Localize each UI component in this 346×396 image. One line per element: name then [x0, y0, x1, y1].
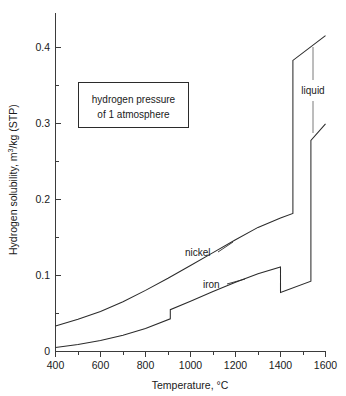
chart-figure: 0 0.1 0.2 0.3 0.4 Hydrogen solubility, m…	[0, 0, 346, 396]
iron-callout: iron	[203, 279, 245, 290]
pressure-annotation-line2: of 1 atmosphere	[97, 109, 170, 120]
liquid-label: liquid	[301, 85, 324, 96]
liquid-callout: liquid	[301, 47, 324, 133]
x-tick-label-1000: 1000	[179, 359, 203, 371]
x-tick-label-800: 800	[137, 359, 155, 371]
y-axis-title-main: Hydrogen solubility, m	[7, 152, 19, 255]
y-tick-label-0: 0	[44, 345, 50, 357]
iron-curve	[56, 124, 326, 348]
svg-text:Hydrogen solubility, m3/kg (ST: Hydrogen solubility, m3/kg (STP)	[7, 104, 19, 255]
x-tick-label-400: 400	[47, 359, 65, 371]
nickel-leader-line	[218, 242, 233, 252]
x-tick-label-1400: 1400	[269, 359, 293, 371]
x-axis: 400 600 800 1000 1200 1400 1600 Temperat…	[47, 352, 338, 392]
iron-leader-line	[227, 279, 245, 284]
y-tick-label-0.1: 0.1	[35, 269, 50, 281]
y-axis-title-tail: /kg (STP)	[7, 104, 19, 148]
y-tick-label-0.3: 0.3	[35, 117, 50, 129]
x-tick-label-600: 600	[92, 359, 110, 371]
solubility-chart: 0 0.1 0.2 0.3 0.4 Hydrogen solubility, m…	[0, 0, 346, 396]
y-tick-label-0.4: 0.4	[35, 41, 50, 53]
nickel-label: nickel	[185, 247, 211, 258]
y-axis-title: Hydrogen solubility, m3/kg (STP)	[7, 104, 19, 255]
iron-label: iron	[203, 279, 220, 290]
x-tick-label-1600: 1600	[314, 359, 338, 371]
x-axis-title: Temperature, °C	[152, 379, 229, 391]
nickel-callout: nickel	[185, 242, 233, 258]
y-tick-label-0.2: 0.2	[35, 193, 50, 205]
x-tick-label-1200: 1200	[224, 359, 248, 371]
y-axis: 0 0.1 0.2 0.3 0.4	[35, 13, 61, 357]
nickel-curve	[56, 36, 326, 326]
pressure-annotation: hydrogen pressure of 1 atmosphere	[79, 83, 189, 128]
pressure-annotation-line1: hydrogen pressure	[92, 94, 176, 105]
pressure-annotation-box	[79, 83, 189, 128]
